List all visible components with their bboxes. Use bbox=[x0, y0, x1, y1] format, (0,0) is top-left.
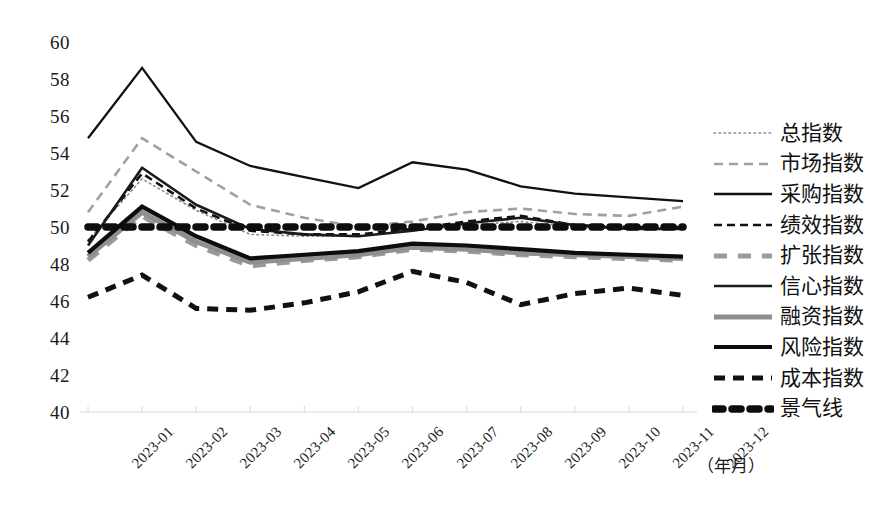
legend-swatch-solid-thick-black-icon bbox=[712, 338, 774, 356]
legend-swatch-dashed-thick-gray-icon bbox=[712, 247, 774, 265]
legend-label: 绩效指数 bbox=[780, 215, 864, 236]
legend-swatch-solid-thick-gray-icon bbox=[712, 308, 774, 326]
y-axis-tick: 58 bbox=[30, 70, 70, 89]
y-axis-tick: 60 bbox=[30, 33, 70, 52]
legend-swatch-dashed-thick-black-icon bbox=[712, 369, 774, 387]
legend-item[interactable]: 扩张指数 bbox=[712, 240, 887, 271]
y-axis-tick: 40 bbox=[30, 403, 70, 422]
legend-item[interactable]: 景气线 bbox=[712, 393, 887, 424]
legend-swatch-dotted-thin-icon bbox=[712, 124, 774, 142]
legend-label: 采购指数 bbox=[780, 184, 864, 205]
x-axis-unit-label: （年月） bbox=[697, 458, 765, 475]
chart-legend: 总指数市场指数采购指数绩效指数扩张指数信心指数融资指数风险指数成本指数景气线 bbox=[712, 118, 887, 424]
legend-item[interactable]: 采购指数 bbox=[712, 179, 887, 210]
series-line bbox=[88, 138, 683, 227]
legend-label: 扩张指数 bbox=[780, 245, 864, 266]
legend-item[interactable]: 风险指数 bbox=[712, 332, 887, 363]
y-axis-tick: 48 bbox=[30, 255, 70, 274]
y-axis-tick: 56 bbox=[30, 107, 70, 126]
series-line bbox=[88, 68, 683, 201]
legend-swatch-solid-thin-icon bbox=[712, 185, 774, 203]
series-line bbox=[88, 271, 683, 310]
legend-swatch-dashed-gray-icon bbox=[712, 155, 774, 173]
legend-label: 市场指数 bbox=[780, 153, 864, 174]
legend-label: 景气线 bbox=[780, 398, 843, 419]
legend-swatch-dashed-black-icon bbox=[712, 216, 774, 234]
chart-root: 6058565452504846444240 2023-012023-02202… bbox=[0, 0, 887, 527]
legend-label: 风险指数 bbox=[780, 337, 864, 358]
legend-item[interactable]: 成本指数 bbox=[712, 363, 887, 394]
legend-item[interactable]: 总指数 bbox=[712, 118, 887, 149]
y-axis-tick: 52 bbox=[30, 181, 70, 200]
legend-item[interactable]: 市场指数 bbox=[712, 149, 887, 180]
legend-item[interactable]: 绩效指数 bbox=[712, 210, 887, 241]
legend-item[interactable]: 信心指数 bbox=[712, 271, 887, 302]
y-axis-tick: 44 bbox=[30, 329, 70, 348]
y-axis-tick: 42 bbox=[30, 366, 70, 385]
legend-label: 成本指数 bbox=[780, 368, 864, 389]
y-axis-tick: 46 bbox=[30, 292, 70, 311]
legend-label: 融资指数 bbox=[780, 306, 864, 327]
legend-swatch-dotted-heavy-icon bbox=[712, 400, 774, 418]
axis-lines bbox=[80, 406, 697, 412]
y-axis-tick: 50 bbox=[30, 218, 70, 237]
y-axis-tick: 54 bbox=[30, 144, 70, 163]
legend-item[interactable]: 融资指数 bbox=[712, 302, 887, 333]
legend-label: 总指数 bbox=[780, 123, 843, 144]
legend-swatch-solid-medium-icon bbox=[712, 277, 774, 295]
legend-label: 信心指数 bbox=[780, 276, 864, 297]
